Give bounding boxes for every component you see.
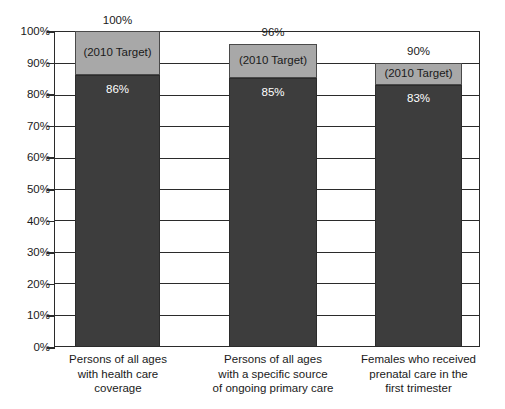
bar-chart: 100% 90% 80% 70% 60% 50% 40% 30% 20% 10%… [0, 0, 505, 409]
category-label-3: Females who received prenatal care in th… [356, 352, 481, 396]
bar-target-segment-1[interactable]: (2010 Target) [75, 31, 160, 75]
bar-target-segment-2[interactable]: (2010 Target) [229, 44, 317, 79]
bars-layer: 100% (2010 Target) 86% 96% (2010 Target)… [54, 31, 480, 347]
category-label-2-line-2: with a specific source [200, 367, 346, 382]
bar-group-3[interactable]: 90% (2010 Target) 83% [375, 31, 462, 347]
bar-target-caption-1: (2010 Target) [83, 47, 151, 59]
bar-total-label-3: 90% [375, 46, 462, 58]
category-label-1-line-2: with health care coverage [53, 367, 183, 396]
category-label-2: Persons of all ages with a specific sour… [200, 352, 346, 396]
category-label-3-line-3: first trimester [356, 381, 481, 396]
bar-group-2[interactable]: 96% (2010 Target) 85% [229, 31, 317, 347]
bar-actual-label-1: 86% [76, 84, 159, 96]
bar-total-label-2: 96% [229, 27, 317, 39]
category-label-1-line-1: Persons of all ages [53, 352, 183, 367]
bar-total-label-1: 100% [75, 15, 160, 27]
bar-actual-segment-1[interactable]: 86% [75, 75, 160, 347]
y-tick-mark-0 [47, 347, 55, 349]
bar-group-1[interactable]: 100% (2010 Target) 86% [75, 31, 160, 347]
bar-actual-label-2: 85% [230, 87, 316, 99]
category-label-3-line-1: Females who received [356, 352, 481, 367]
bar-actual-segment-3[interactable]: 83% [375, 85, 462, 347]
bar-target-caption-3: (2010 Target) [384, 68, 452, 80]
category-label-3-line-2: prenatal care in the [356, 367, 481, 382]
bar-actual-label-3: 83% [376, 93, 461, 105]
bar-target-caption-2: (2010 Target) [239, 55, 307, 67]
category-label-1: Persons of all ages with health care cov… [53, 352, 183, 396]
bar-target-segment-3[interactable]: (2010 Target) [375, 63, 462, 85]
category-label-2-line-3: of ongoing primary care [200, 381, 346, 396]
y-axis: 100% 90% 80% 70% 60% 50% 40% 30% 20% 10%… [0, 31, 50, 347]
bar-actual-segment-2[interactable]: 85% [229, 78, 317, 347]
category-label-2-line-1: Persons of all ages [200, 352, 346, 367]
